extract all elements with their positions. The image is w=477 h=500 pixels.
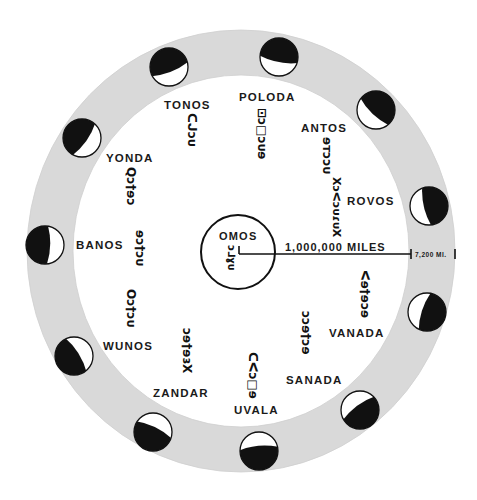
planet-glyph-banos: ɘɔ†ɔᴜ: [134, 230, 146, 266]
planet-label-antos: ANTOS: [301, 123, 347, 135]
central-body-circle: [201, 215, 275, 289]
planet-label-uvala: UVALA: [234, 405, 279, 417]
scale-label-main: 1,000,000 MILES: [285, 241, 386, 253]
planet-glyph-yonda: Qɔ†ɘɔ: [125, 167, 137, 206]
planet-label-tonos: TONOS: [164, 100, 211, 112]
planet-label-banos: BANOS: [76, 240, 124, 252]
central-body-label: OMOS: [219, 231, 257, 242]
solar-system-diagram: OMOS ɔ⅃ɣᴜ 1,000,000 MILES 7,200 MI. TONO…: [0, 0, 477, 500]
planet-glyph-uvala: ᑕᐸɔ□ɘ: [247, 352, 259, 399]
planet-label-sanada: SANADA: [286, 375, 342, 387]
planet-glyph-rovos: ХɔᐸɔᴜɾᴜХ: [331, 177, 342, 237]
planet-label-rovos: ROVOS: [347, 196, 395, 208]
planet-label-poloda: POLODA: [239, 92, 295, 104]
planet-glyph-vanada: ᐸɘ†ɘɔɘ: [359, 270, 371, 318]
planet-label-wunos: WUNOS: [103, 341, 153, 353]
central-body-glyph: ɔ⅃ɣᴜ: [226, 245, 236, 270]
diagram-graphics: [0, 0, 477, 500]
planet-glyph-tonos: ᑕᒍɔᴜ: [186, 113, 198, 146]
planet-glyph-zandar: ɔɘ†ɘɜX: [181, 328, 193, 373]
planet-glyph-wunos: Oɔ†ɔᴜ: [125, 289, 137, 327]
planet-glyph-poloda: ⊡ɔ□ɔᴜɘ: [256, 108, 268, 159]
scale-label-ring: 7,200 MI.: [415, 251, 447, 258]
planet-label-vanada: VANADA: [329, 328, 385, 340]
planet-glyph-antos: ɘᴛɔɔᴜ: [321, 137, 333, 174]
planet-label-yonda: YONDA: [106, 153, 154, 165]
planet-glyph-sanada: ɔɔɘ†ɔɘ: [300, 311, 312, 355]
planet-label-zandar: ZANDAR: [153, 388, 209, 400]
